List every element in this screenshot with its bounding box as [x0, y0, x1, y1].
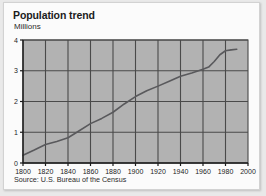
x-tick-label: 1900	[128, 168, 144, 175]
y-tick-label: 0	[14, 160, 18, 167]
chart-card: Population trend Millions 01234180018201…	[3, 2, 260, 190]
x-tick-label: 1980	[218, 168, 234, 175]
y-tick-label: 3	[14, 67, 18, 74]
x-tick-label: 2000	[240, 168, 256, 175]
x-tick-label: 1800	[15, 168, 31, 175]
x-tick-label: 1880	[105, 168, 121, 175]
x-tick-label: 1940	[173, 168, 189, 175]
plot-area: 0123418001820184018601880190019201940196…	[4, 3, 261, 191]
x-tick-label: 1920	[150, 168, 166, 175]
x-tick-label: 1820	[38, 168, 54, 175]
y-tick-label: 1	[14, 129, 18, 136]
x-tick-label: 1840	[60, 168, 76, 175]
x-tick-label: 1960	[195, 168, 211, 175]
y-tick-label: 2	[14, 98, 18, 105]
population-trend-line-chart: 0123418001820184018601880190019201940196…	[4, 3, 261, 191]
source-note: Source: U.S. Bureau of the Census	[14, 175, 126, 184]
x-tick-label: 1860	[83, 168, 99, 175]
y-tick-label: 4	[14, 37, 18, 44]
